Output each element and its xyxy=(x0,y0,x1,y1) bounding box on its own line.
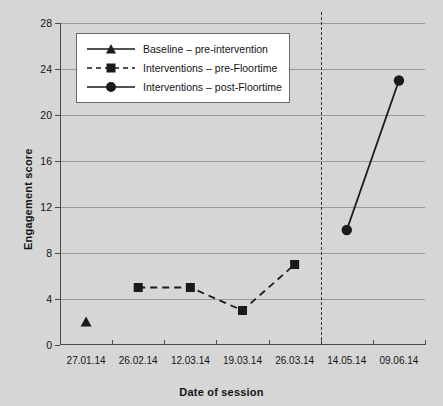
x-tick-label: 26.03.14 xyxy=(275,355,314,366)
x-tick-label: 14.05.14 xyxy=(327,355,366,366)
x-tick-label: 19.03.14 xyxy=(223,355,262,366)
x-tick-label: 27.01.14 xyxy=(67,355,106,366)
y-tick-mark xyxy=(55,345,60,346)
data-point-marker xyxy=(394,75,404,85)
y-tick-label: 0 xyxy=(46,339,52,351)
y-tick-label: 4 xyxy=(46,293,52,305)
legend-key-triangle-icon xyxy=(85,42,137,56)
x-tick-label: 09.06.14 xyxy=(379,355,418,366)
legend-label-pre-floortime: Interventions – pre-Floortime xyxy=(143,62,277,74)
data-point-marker xyxy=(342,225,352,235)
x-tick-label: 26.02.14 xyxy=(119,355,158,366)
legend: Baseline – pre-intervention Intervention… xyxy=(76,33,290,103)
legend-label-post-floortime: Interventions – post-Floortime xyxy=(143,81,282,93)
y-tick-label: 16 xyxy=(40,155,52,167)
data-point-marker xyxy=(290,260,299,269)
x-tick-label: 12.03.14 xyxy=(171,355,210,366)
series-line xyxy=(347,81,399,231)
data-point-marker xyxy=(134,283,143,292)
legend-item-pre-floortime: Interventions – pre-Floortime xyxy=(85,58,281,77)
y-tick-label: 24 xyxy=(40,63,52,75)
data-point-marker xyxy=(238,306,247,315)
y-tick-label: 8 xyxy=(46,247,52,259)
y-tick-label: 20 xyxy=(40,109,52,121)
x-axis-title: Date of session xyxy=(0,386,443,398)
y-tick-label: 12 xyxy=(40,201,52,213)
legend-item-post-floortime: Interventions – post-Floortime xyxy=(85,77,281,96)
engagement-score-chart: Engagement score 0481216202428 27.01.142… xyxy=(0,0,443,406)
data-point-marker xyxy=(186,283,195,292)
legend-item-baseline: Baseline – pre-intervention xyxy=(85,39,281,58)
legend-key-square-icon xyxy=(85,61,137,75)
x-tick-mark xyxy=(425,340,426,345)
y-axis-title: Engagement score xyxy=(22,148,34,250)
legend-label-baseline: Baseline – pre-intervention xyxy=(143,43,268,55)
series-line xyxy=(138,265,294,311)
y-tick-label: 28 xyxy=(40,17,52,29)
data-point-marker xyxy=(81,317,92,327)
legend-key-circle-icon xyxy=(85,80,137,94)
